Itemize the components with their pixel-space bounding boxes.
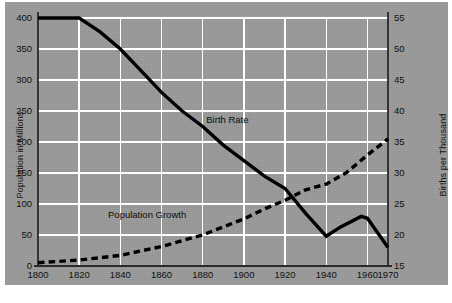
chart-canvas: Birth RatePopulation Growth bbox=[0, 0, 452, 303]
data-series bbox=[38, 18, 388, 263]
svg-text:Population Growth: Population Growth bbox=[108, 209, 186, 220]
svg-text:Birth Rate: Birth Rate bbox=[206, 114, 248, 125]
chart-figure: Population in Millions Births per Thousa… bbox=[0, 0, 452, 303]
